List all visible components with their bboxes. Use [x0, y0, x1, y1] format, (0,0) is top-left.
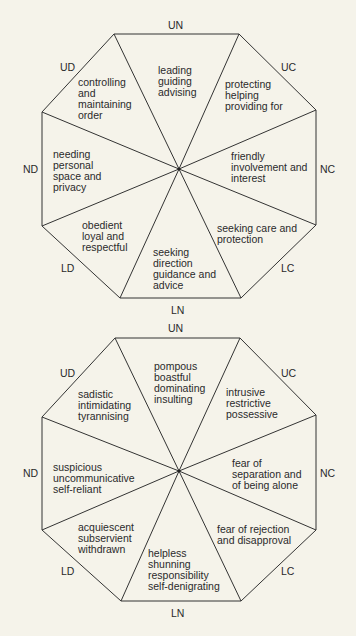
axis-label-lc: LC [281, 263, 294, 274]
axis-label-lc: LC [281, 566, 294, 577]
segment-uc: protecting helping providing for [225, 79, 283, 112]
axis-label-ln: LN [171, 608, 184, 619]
octagon-diagram-maladaptive: UN UC NC LC LN LD ND UD pompous boastful… [0, 302, 356, 636]
segment-lc: seeking care and protection [217, 223, 297, 245]
axis-label-nd: ND [23, 164, 38, 175]
axis-label-nc: NC [320, 468, 335, 479]
axis-label-uc: UC [281, 368, 296, 379]
segment-ud: sadistic intimidating tyrannising [78, 389, 131, 422]
axis-label-ld: LD [61, 566, 74, 577]
segment-nc: friendly involvement and interest [231, 151, 307, 184]
segment-ln: helpless shunning responsibility self-de… [148, 548, 220, 592]
segment-ln: seeking direction guidance and advice [153, 247, 216, 291]
segment-lc: fear of rejection and disapproval [217, 524, 291, 546]
axis-label-un: UN [168, 323, 183, 334]
axis-label-ud: UD [60, 368, 75, 379]
octagon-diagram-adaptive: UN UC NC LC LN LD ND UD leading guiding … [0, 0, 356, 320]
segment-nd: suspicious uncommunicative self-reliant [53, 462, 135, 495]
axis-label-uc: UC [281, 62, 296, 73]
axis-label-nc: NC [320, 164, 335, 175]
axis-label-ld: LD [61, 263, 74, 274]
segment-ud: controlling and maintaining order [78, 77, 132, 121]
segment-un: leading guiding advising [158, 65, 197, 98]
segment-uc: intrusive restrictive possessive [226, 387, 278, 420]
segment-ld: acquiescent subservient withdrawn [78, 522, 134, 555]
axis-label-un: UN [168, 20, 183, 31]
axis-label-nd: ND [23, 468, 38, 479]
segment-nd: needing personal space and privacy [53, 149, 101, 193]
segment-nc: fear of separation and of being alone [232, 458, 301, 491]
axis-label-ud: UD [60, 62, 75, 73]
segment-un: pompous boastful dominating insulting [154, 361, 205, 405]
segment-ld: obedient loyal and respectful [82, 220, 128, 253]
